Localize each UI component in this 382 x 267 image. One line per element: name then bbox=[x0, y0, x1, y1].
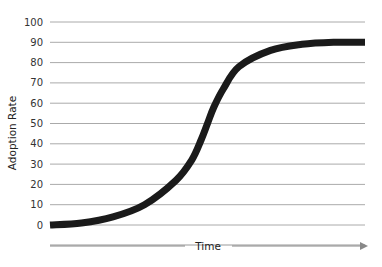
y-tick-label: 20 bbox=[30, 179, 43, 190]
y-tick-label: 40 bbox=[30, 138, 43, 149]
y-tick-label: 80 bbox=[30, 57, 43, 68]
y-tick-label: 60 bbox=[30, 98, 43, 109]
adoption-curve bbox=[50, 42, 365, 225]
y-tick-label: 10 bbox=[30, 199, 43, 210]
y-tick-label: 50 bbox=[30, 118, 43, 129]
y-axis-label: Adoption Rate bbox=[6, 96, 18, 170]
y-tick-label: 70 bbox=[30, 77, 43, 88]
s-curve-chart: 0102030405060708090100 Adoption Rate Tim… bbox=[0, 0, 382, 267]
y-tick-label: 0 bbox=[37, 220, 43, 231]
y-tick-label: 100 bbox=[24, 17, 43, 28]
x-axis-label: Time bbox=[194, 240, 221, 252]
y-axis-ticks: 0102030405060708090100 bbox=[24, 17, 43, 231]
y-tick-label: 30 bbox=[30, 159, 43, 170]
y-tick-label: 90 bbox=[30, 37, 43, 48]
arrow-head-icon bbox=[360, 242, 368, 250]
